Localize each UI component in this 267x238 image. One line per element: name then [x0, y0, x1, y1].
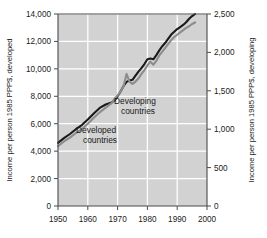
- tick-label-bottom: 1990: [168, 215, 187, 224]
- tick-label-bottom: 2000: [198, 215, 217, 224]
- tick-label-left: 2,000: [31, 175, 52, 184]
- right-axis-ticks: [207, 14, 211, 206]
- tick-label-right: 500: [214, 164, 228, 173]
- tick-label-bottom: 1980: [138, 215, 157, 224]
- income-per-person-line-chart: 02,0004,0006,0008,00010,00012,00014,000 …: [0, 0, 267, 238]
- left-axis-title: Income per person 1985 PPP$, developed: [5, 38, 14, 181]
- left-axis-tick-labels: 02,0004,0006,0008,00010,00012,00014,000: [26, 10, 51, 211]
- bottom-axis-ticks: [58, 206, 207, 210]
- tick-label-left: 14,000: [26, 10, 51, 19]
- tick-label-bottom: 1950: [49, 215, 68, 224]
- developed-countries-annotation: Developed countries: [76, 125, 117, 145]
- left-axis-ticks: [54, 14, 58, 206]
- tick-label-left: 0: [46, 202, 51, 211]
- bottom-axis-tick-labels: 195019601970198019902000: [49, 215, 217, 224]
- tick-label-left: 10,000: [26, 65, 51, 74]
- tick-label-left: 8,000: [31, 92, 52, 101]
- chart-container: 02,0004,0006,0008,00010,00012,00014,000 …: [0, 0, 267, 238]
- right-axis-title: Income per person 1985 PPP$, developing: [247, 38, 256, 183]
- right-axis-tick-labels: 05001,0001,5002,0002,500: [214, 10, 235, 211]
- tick-label-right: 0: [214, 202, 219, 211]
- tick-label-bottom: 1960: [79, 215, 98, 224]
- developed-label-line1: Developed: [76, 125, 116, 135]
- developing-label-line2: countries: [121, 106, 155, 116]
- developed-label-line2: countries: [83, 135, 117, 145]
- tick-label-left: 6,000: [31, 120, 52, 129]
- developing-countries-annotation: Developing countries: [114, 96, 156, 116]
- tick-label-right: 1,500: [214, 87, 235, 96]
- tick-label-left: 4,000: [31, 147, 52, 156]
- tick-label-bottom: 1970: [108, 215, 127, 224]
- tick-label-left: 12,000: [26, 37, 51, 46]
- tick-label-right: 1,000: [214, 125, 235, 134]
- tick-label-right: 2,000: [214, 48, 235, 57]
- developing-label-line1: Developing: [114, 96, 156, 106]
- tick-label-right: 2,500: [214, 10, 235, 19]
